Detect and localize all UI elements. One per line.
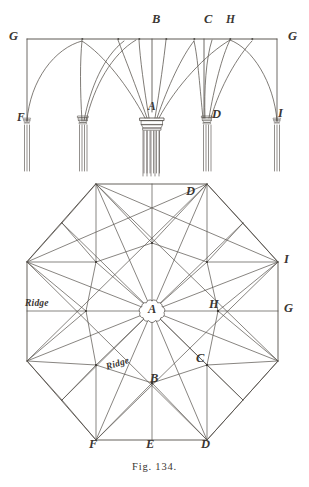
elevation-label-C: C	[204, 13, 212, 26]
elevation-arch-centre-left-a	[82, 41, 145, 118]
elevation-label-F: F	[17, 112, 25, 124]
elevation-arch-centre-right-a	[155, 40, 166, 118]
elevation-pier-centre	[140, 118, 164, 173]
plan-label-A-centre: A	[148, 303, 156, 316]
elevation-pier-right	[273, 118, 280, 171]
figure-drawing	[0, 0, 309, 487]
elevation-pier-4	[202, 116, 212, 171]
elevation-arch-left-b	[84, 41, 124, 121]
elevation-arch-centre-right-b	[157, 41, 194, 118]
plan-label-F-bottom: F	[89, 438, 97, 451]
plan-label-I-right: I	[284, 253, 289, 266]
elevation-arch-left-c	[86, 40, 136, 121]
elevation-arch-right-a	[194, 41, 203, 118]
plan-label-G-right: G	[284, 302, 293, 315]
plan-ridge-northeast	[152, 223, 243, 311]
elevation-pier-left	[23, 118, 30, 171]
figure-134: G B C H G A D I F D I G H A C B F E D Ri…	[0, 0, 309, 487]
elevation-label-G-left: G	[9, 30, 18, 43]
elevation-arch-wall-left	[27, 41, 82, 121]
elevation-label-A: A	[148, 101, 156, 113]
elevation-label-B: B	[152, 13, 160, 26]
figure-caption: Fig. 134.	[0, 461, 309, 472]
elevation-arch-centre-left-b	[118, 40, 147, 118]
plan-ridge-northwest	[62, 223, 152, 311]
elevation-label-H: H	[226, 14, 235, 26]
elevation-pier-2	[78, 116, 88, 171]
plan-label-D-top: D	[186, 185, 195, 198]
plan-label-ridge-left: Ridge	[25, 299, 49, 309]
elevation-label-D: D	[212, 108, 221, 121]
plan-label-H: H	[209, 298, 219, 311]
plan-label-D-bottom: D	[201, 438, 210, 451]
plan-label-B: B	[150, 372, 158, 385]
plan-label-C: C	[196, 352, 204, 365]
elevation-arch-left-a	[81, 41, 83, 121]
elevation-label-G-right: G	[288, 30, 297, 43]
elevation-arch-wall-right	[230, 40, 277, 121]
elevation-label-I: I	[278, 107, 283, 120]
plan-label-E-bottom: E	[146, 438, 154, 451]
